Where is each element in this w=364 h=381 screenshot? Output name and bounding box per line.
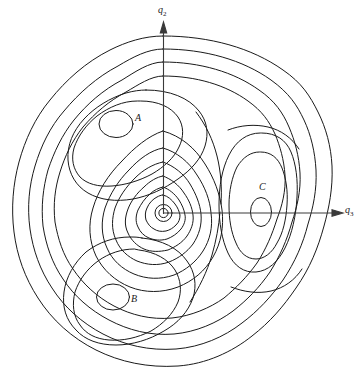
contour-figure: q2 q3 A B C: [0, 0, 364, 381]
well-C-innermost: [251, 198, 272, 227]
contour-level-6: [54, 76, 285, 318]
contour-ridge-right-lower: [231, 269, 302, 292]
region-label-a: A: [135, 112, 141, 123]
contour-level-5-lobe-right: [219, 133, 297, 272]
region-label-c: C: [259, 181, 266, 192]
q2-axis-arrowhead: [160, 22, 166, 33]
contour-ridge-right-upper: [228, 125, 299, 149]
contour-level-5-lobe-left: [68, 90, 207, 200]
q3-axis-label: q3: [345, 204, 354, 218]
q3-axis-arrowhead: [332, 210, 343, 216]
contour-level-5-center: [90, 131, 223, 292]
contour-level-7: [42, 62, 300, 334]
contour-lines: [13, 36, 333, 366]
q3-axis-subscript: 3: [350, 210, 354, 218]
well-B-innermost: [97, 284, 130, 310]
well-A-innermost: [99, 111, 133, 138]
region-label-b: B: [131, 293, 137, 304]
q2-axis-subscript: 2: [163, 10, 167, 18]
contour-plot-svg: [0, 0, 364, 381]
contour-level-4-lobe-right: [229, 152, 287, 259]
q2-axis-label: q2: [158, 4, 167, 18]
